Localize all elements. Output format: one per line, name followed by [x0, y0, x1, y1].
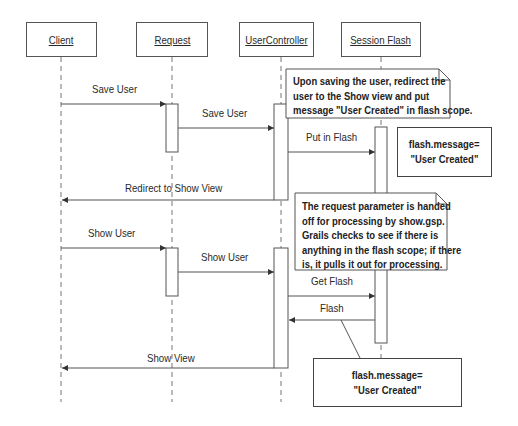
actor-usercontroller-label: UserController — [245, 34, 307, 46]
note-2-line-1: The request parameter is handed — [302, 199, 412, 214]
msg-label-show-view: Show View — [147, 352, 195, 364]
msg-label-put-in-flash: Put in Flash — [306, 131, 357, 143]
msg-label-redirect: Redirect to Show View — [125, 182, 222, 194]
msg-label-show-user-1: Show User — [88, 227, 135, 239]
note-redirect-explanation: Upon saving the user, redirect the user … — [287, 70, 437, 122]
msg-label-get-flash: Get Flash — [311, 275, 353, 287]
actor-client-label: Client — [49, 34, 74, 46]
actor-sessionflash: Session Flash — [341, 22, 421, 57]
activation-request-2 — [166, 248, 178, 296]
flash-box-2-line-1: flash.message= — [352, 368, 423, 383]
note-show-gsp-explanation: The request parameter is handed off for … — [296, 195, 436, 276]
actor-request-label: Request — [154, 34, 190, 46]
note-1-line-1: Upon saving the user, redirect the — [293, 74, 412, 89]
note-2-line-4: anything in the flash scope; if there — [302, 243, 412, 258]
msg-label-show-user-2: Show User — [201, 251, 248, 263]
actor-sessionflash-label: Session Flash — [351, 34, 412, 46]
actor-request: Request — [136, 22, 208, 57]
actor-usercontroller: UserController — [239, 22, 314, 57]
note-2-line-2: off for processing by show.gsp. — [302, 214, 412, 229]
flash-box-1-line-1: flash.message= — [409, 137, 480, 152]
msg-label-save-user-2: Save User — [202, 107, 247, 119]
msg-label-flash: Flash — [320, 302, 344, 314]
flash-box-1-line-2: "User Created" — [411, 152, 479, 167]
note-connector — [341, 320, 360, 358]
actor-client: Client — [26, 22, 97, 57]
note-1-line-2: user to the Show view and put — [293, 89, 412, 104]
flash-message-box-2: flash.message= "User Created" — [313, 358, 462, 407]
flash-box-2-line-2: "User Created" — [354, 383, 422, 398]
note-2-line-3: Grails checks to see if there is — [302, 228, 412, 243]
flash-message-box-1: flash.message= "User Created" — [397, 127, 492, 177]
activation-usercontroller-2 — [274, 248, 288, 368]
note-1-line-3: message "User Created" in flash scope. — [293, 103, 412, 118]
activation-request-1 — [166, 104, 178, 152]
note-2-line-5: is, it pulls it out for processing. — [302, 257, 412, 272]
msg-label-save-user-1: Save User — [92, 83, 137, 95]
